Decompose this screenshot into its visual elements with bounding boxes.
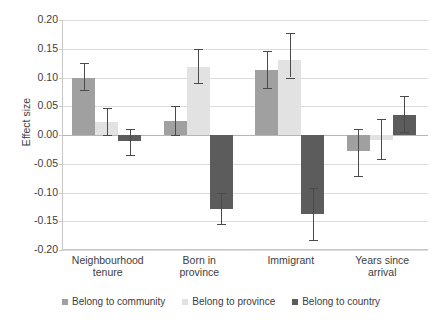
x-axis-category-label-line: Years since — [337, 254, 429, 266]
error-bar-line — [175, 106, 176, 135]
y-axis-tick-mark — [59, 49, 63, 50]
error-bar-cap-upper — [80, 63, 89, 64]
y-axis-tick-label: -0.15 — [18, 215, 58, 226]
error-bar-cap-upper — [354, 129, 363, 130]
error-bar-line — [267, 51, 268, 88]
error-bar-line — [221, 193, 222, 225]
error-bar-cap-lower — [263, 88, 272, 89]
y-axis-tick-mark — [59, 193, 63, 194]
legend-label: Belong to province — [192, 296, 275, 307]
error-bar-cap-upper — [103, 108, 112, 109]
gridline — [63, 106, 428, 107]
x-axis-category-label: Neighbourhoodtenure — [62, 254, 154, 278]
y-axis-tick-label: -0.20 — [18, 244, 58, 255]
error-bar-line — [358, 129, 359, 176]
legend-label: Belong to country — [302, 296, 380, 307]
error-bar-cap-lower — [309, 240, 318, 241]
error-bar-line — [198, 49, 199, 83]
gridline — [63, 20, 428, 21]
x-axis-category-label: Born inprovince — [154, 254, 246, 278]
error-bar-line — [381, 119, 382, 159]
y-axis-tick-label: -0.05 — [18, 158, 58, 169]
y-axis-tick-label: 0.20 — [18, 14, 58, 25]
error-bar-line — [130, 129, 131, 155]
gridline — [63, 221, 428, 222]
error-bar-cap-upper — [286, 33, 295, 34]
chart-legend: Belong to communityBelong to provinceBel… — [0, 296, 442, 307]
y-axis-tick-label: 0.15 — [18, 43, 58, 54]
error-bar-line — [107, 108, 108, 135]
y-axis-tick-label: 0.00 — [18, 129, 58, 140]
error-bar-cap-lower — [103, 135, 112, 136]
x-axis-category-label-line: Neighbourhood — [62, 254, 154, 266]
y-axis-tick-label: 0.10 — [18, 72, 58, 83]
x-axis-category-label-line: Born in — [154, 254, 246, 266]
error-bar-cap-lower — [171, 135, 180, 136]
error-bar-cap-upper — [377, 119, 386, 120]
error-bar-cap-upper — [194, 49, 203, 50]
x-axis-category-label-line: Immigrant — [245, 254, 337, 266]
y-axis-tick-label: 0.05 — [18, 100, 58, 111]
gridline — [63, 78, 428, 79]
x-axis-category-label: Immigrant — [245, 254, 337, 266]
gridline — [63, 193, 428, 194]
gridline — [63, 164, 428, 165]
y-axis-tick-mark — [59, 78, 63, 79]
error-bar-cap-lower — [354, 176, 363, 177]
error-bar-cap-upper — [171, 106, 180, 107]
error-bar-line — [84, 63, 85, 90]
legend-label: Belong to community — [72, 296, 165, 307]
plot-area — [62, 20, 428, 250]
error-bar-line — [290, 33, 291, 78]
legend-swatch-icon — [292, 299, 298, 305]
error-bar-line — [313, 188, 314, 240]
error-bar-cap-lower — [286, 78, 295, 79]
error-bar-cap-lower — [194, 83, 203, 84]
effect-size-bar-chart: Effect size 0.200.150.100.050.00-0.05-0.… — [0, 0, 442, 320]
error-bar-cap-lower — [126, 155, 135, 156]
error-bar-line — [404, 96, 405, 132]
x-axis-category-labels: NeighbourhoodtenureBorn inprovinceImmigr… — [62, 254, 428, 294]
legend-item[interactable]: Belong to country — [292, 296, 380, 307]
error-bar-cap-lower — [400, 132, 409, 133]
error-bar-cap-upper — [126, 129, 135, 130]
x-axis-category-label-line: province — [154, 266, 246, 278]
x-axis-category-label: Years sincearrival — [337, 254, 429, 278]
legend-swatch-icon — [182, 299, 188, 305]
y-axis-tick-mark — [59, 20, 63, 21]
y-axis-tick-label: -0.10 — [18, 187, 58, 198]
error-bar-cap-lower — [377, 159, 386, 160]
y-axis-tick-mark — [59, 250, 63, 251]
y-axis-tick-labels: 0.200.150.100.050.00-0.05-0.10-0.15-0.20 — [14, 0, 58, 320]
legend-swatch-icon — [62, 299, 68, 305]
error-bar-cap-lower — [80, 90, 89, 91]
y-axis-tick-mark — [59, 106, 63, 107]
y-axis-tick-mark — [59, 135, 63, 136]
error-bar-cap-upper — [400, 96, 409, 97]
legend-item[interactable]: Belong to province — [182, 296, 275, 307]
gridline — [63, 49, 428, 50]
legend-item[interactable]: Belong to community — [62, 296, 165, 307]
error-bar-cap-upper — [217, 193, 226, 194]
error-bar-cap-lower — [217, 224, 226, 225]
error-bar-cap-upper — [309, 188, 318, 189]
error-bar-cap-upper — [263, 51, 272, 52]
y-axis-tick-mark — [59, 164, 63, 165]
x-axis-category-label-line: arrival — [337, 266, 429, 278]
x-axis-category-label-line: tenure — [62, 266, 154, 278]
gridline — [63, 250, 428, 251]
y-axis-tick-mark — [59, 221, 63, 222]
